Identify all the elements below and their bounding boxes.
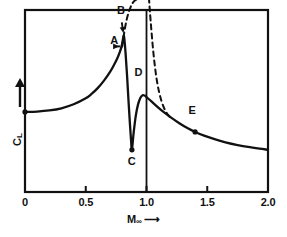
- curve-point-label-E: E: [188, 105, 195, 116]
- curve-point-label-B: B: [117, 5, 125, 16]
- x-axis-title-symbol: M: [127, 213, 136, 225]
- x-axis-tick-label-3: 1.5: [197, 197, 217, 208]
- curve-point-label-A: A: [110, 35, 118, 46]
- curve-point-label-D: D: [135, 67, 143, 78]
- y-axis-title-symbol: C: [11, 138, 23, 146]
- x-axis-tick-label-2: 1.0: [137, 197, 157, 208]
- y-axis-title-subscript: L: [15, 133, 24, 138]
- x-axis-tick-label-1: 0.5: [76, 197, 96, 208]
- point-marker-C: [129, 147, 134, 152]
- series-path-2: [149, 0, 170, 117]
- point-marker-E: [193, 129, 198, 134]
- x-axis-tick-label-0: 0: [15, 197, 35, 208]
- y-axis-title: CL: [12, 133, 24, 146]
- x-axis-tick-label-4: 2.0: [258, 197, 278, 208]
- y-axis-up-arrow-icon: [12, 78, 28, 108]
- x-axis-title-subscript: ∞: [136, 217, 141, 226]
- x-axis-title-arrow: ⟶: [144, 214, 160, 225]
- point-marker-origin: [22, 109, 27, 114]
- curve-point-label-C: C: [128, 156, 136, 167]
- chart-figure: 00.51.01.52.0 ABCDE M∞⟶ CL: [0, 0, 287, 237]
- x-axis-title: M∞⟶: [127, 214, 160, 226]
